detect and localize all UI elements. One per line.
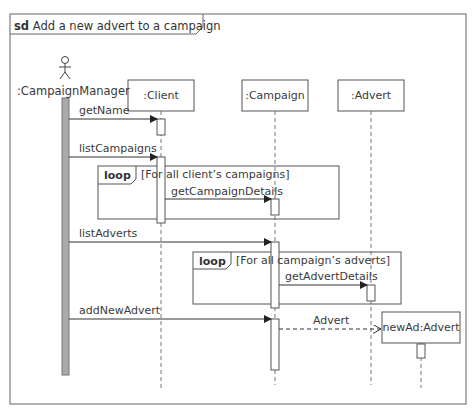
loop-operator-2: loop: [199, 255, 226, 268]
sd-frame: [10, 14, 466, 404]
activation-newad: [417, 344, 425, 358]
loop-guard-2: [For all campaign’s adverts]: [236, 255, 390, 266]
message-label-getname: getName: [79, 105, 130, 116]
actor-label: :CampaignManager: [17, 86, 130, 98]
activation-client-1: [157, 119, 165, 135]
frame-keyword: sd: [14, 19, 29, 33]
actor-icon: [59, 57, 71, 80]
activation-client-2: [157, 157, 165, 223]
loop-guard-1: [For all client’s campaigns]: [141, 169, 290, 180]
message-label-listadverts: listAdverts: [79, 228, 137, 239]
lifeline-label-client: :Client: [128, 80, 194, 111]
loop-operator-1: loop: [104, 169, 131, 182]
lifeline-label-campaign: :Campaign: [242, 80, 308, 111]
message-label-listcampaigns: listCampaigns: [79, 143, 157, 154]
message-label-create-advert: Advert: [313, 315, 349, 326]
lifeline-label-advert: :Advert: [338, 80, 404, 111]
frame-title: sd Add a new advert to a campaign: [14, 19, 221, 33]
message-label-getadvertdetails: getAdvertDetails: [285, 271, 378, 282]
sequence-diagram-canvas: [0, 0, 475, 416]
lifeline-label-newad: newAd:Advert: [382, 312, 460, 343]
activation-campaign-2: [271, 242, 279, 308]
activation-campaign-3: [271, 319, 279, 370]
actor-activation-bar: [62, 98, 69, 375]
activation-campaign-1: [271, 199, 279, 215]
frame-title-text: Add a new advert to a campaign: [33, 19, 221, 33]
message-label-addnewadvert: addNewAdvert: [79, 305, 160, 316]
activation-advert-1: [367, 285, 375, 301]
message-label-getcampaigndetails: getCampaignDetails: [171, 186, 283, 197]
